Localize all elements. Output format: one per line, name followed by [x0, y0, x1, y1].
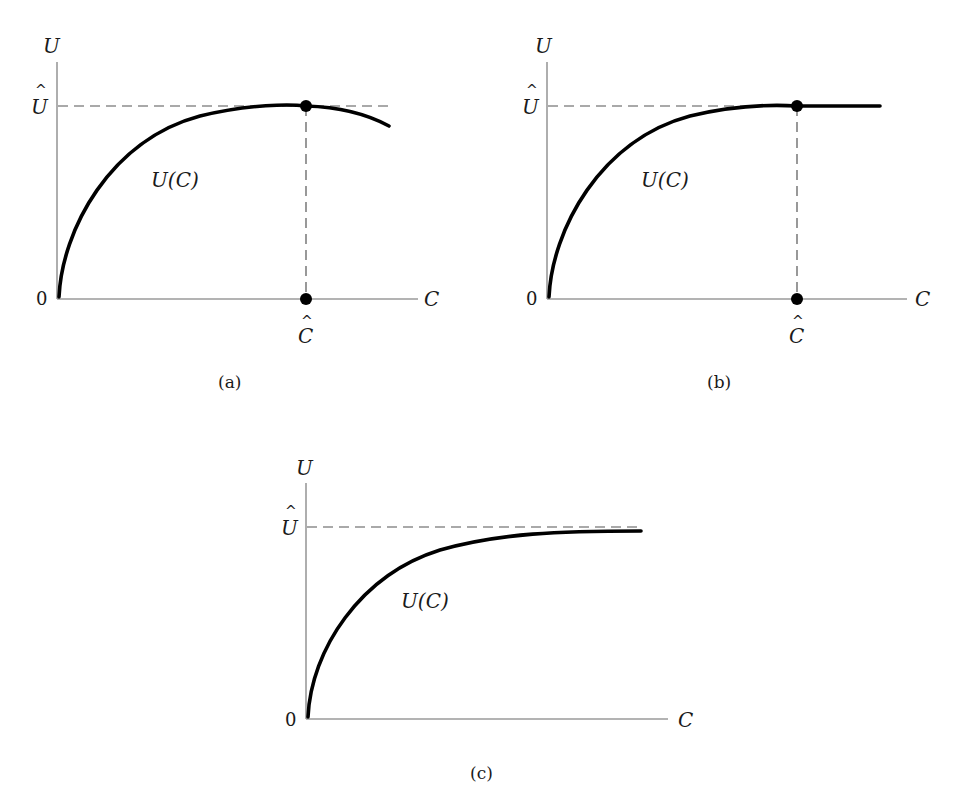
u-hat-label: U — [522, 95, 540, 119]
utility-curve — [308, 531, 641, 717]
panel-caption: (b) — [707, 372, 731, 392]
max-point-marker — [300, 100, 312, 112]
c-hat-label: C — [298, 324, 313, 348]
u-hat-label: U — [281, 516, 299, 540]
c-hat-marker — [791, 293, 803, 305]
figure: U ^ U 0 C ^ C U(C) (a) U ^ U 0 C ^ C U(C… — [0, 0, 956, 796]
x-axis-label: C — [678, 708, 693, 732]
x-axis-label: C — [424, 287, 439, 311]
panel-caption: (a) — [218, 372, 241, 392]
y-axis-label: U — [296, 456, 314, 480]
panel-a: U ^ U 0 C ^ C U(C) (a) — [31, 34, 439, 392]
origin-label: 0 — [526, 288, 537, 309]
c-hat-marker — [300, 293, 312, 305]
curve-label: U(C) — [151, 168, 199, 192]
origin-label: 0 — [285, 709, 296, 730]
curve-label: U(C) — [641, 168, 689, 192]
panel-b: U ^ U 0 C ^ C U(C) (b) — [522, 34, 930, 392]
x-axis-label: C — [915, 287, 930, 311]
panel-caption: (c) — [470, 763, 493, 783]
u-hat-label: U — [31, 95, 49, 119]
y-axis-label: U — [535, 34, 553, 58]
curve-label: U(C) — [401, 589, 449, 613]
y-axis-label: U — [43, 34, 61, 58]
max-point-marker — [791, 100, 803, 112]
panel-c: U ^ U 0 C U(C) (c) — [281, 456, 693, 783]
utility-curve — [549, 105, 880, 297]
c-hat-label: C — [789, 324, 804, 348]
utility-curve — [59, 105, 389, 297]
origin-label: 0 — [36, 288, 47, 309]
